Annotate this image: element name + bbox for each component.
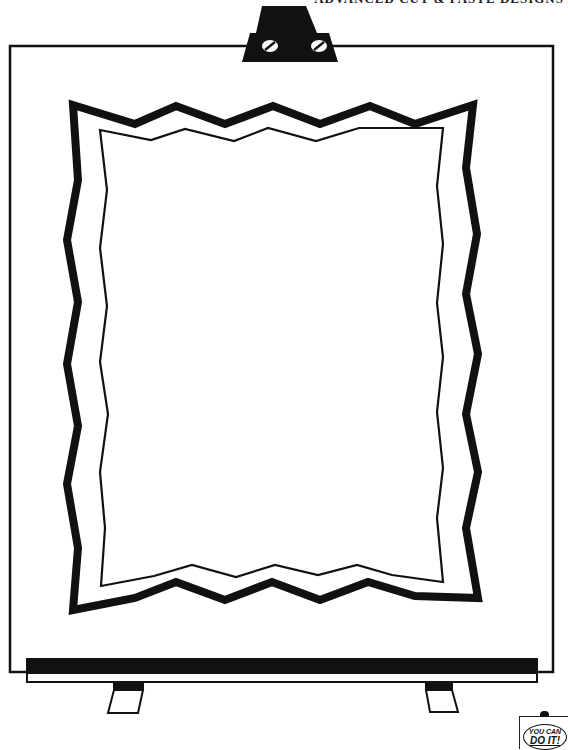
badge-knob-icon [540,711,549,717]
easel-leg-left [108,683,144,713]
you-can-do-it-badge: YOU CAN DO IT! [519,716,568,749]
screw-icon [262,40,278,52]
badge-line-2: DO IT! [524,737,566,745]
easel-ledge [26,658,538,682]
easel-leg-right [425,683,458,712]
easel-top-clamp [242,6,338,62]
badge-oval: YOU CAN DO IT! [523,724,567,750]
screw-icon [311,40,327,52]
